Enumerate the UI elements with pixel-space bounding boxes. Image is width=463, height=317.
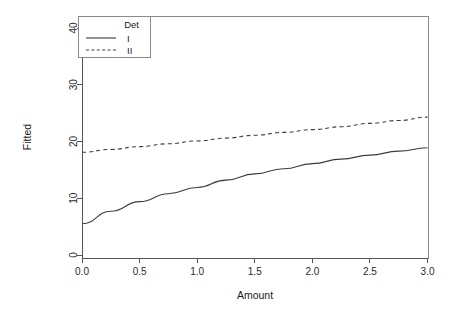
y-tick-label: 10 bbox=[68, 192, 79, 204]
x-tick-label: 0.5 bbox=[133, 266, 147, 277]
legend-label-II: II bbox=[127, 45, 132, 56]
legend-label-I: I bbox=[127, 33, 130, 44]
y-tick-label: 0 bbox=[68, 252, 79, 258]
legend-box bbox=[78, 16, 150, 57]
x-axis-title: Amount bbox=[237, 289, 273, 301]
y-tick-label: 30 bbox=[68, 79, 79, 91]
x-axis-ticks: 0.00.51.01.52.02.53.0 bbox=[75, 258, 435, 277]
x-tick-label: 1.5 bbox=[248, 266, 262, 277]
x-tick-label: 2.0 bbox=[305, 266, 319, 277]
y-tick-label: 40 bbox=[68, 22, 79, 34]
x-tick-label: 1.0 bbox=[190, 266, 204, 277]
legend: Det III bbox=[78, 16, 150, 57]
x-tick-label: 2.5 bbox=[363, 266, 377, 277]
legend-title: Det bbox=[124, 19, 139, 30]
series-line-I bbox=[82, 148, 428, 224]
x-tick-label: 3.0 bbox=[421, 266, 435, 277]
chart-figure: 010203040 0.00.51.01.52.02.53.0 Amount F… bbox=[0, 0, 463, 317]
x-tick-label: 0.0 bbox=[75, 266, 89, 277]
plot-canvas: 010203040 0.00.51.01.52.02.53.0 Amount F… bbox=[0, 0, 463, 317]
y-axis-title: Fitted bbox=[21, 124, 33, 150]
data-series-group bbox=[82, 117, 428, 224]
series-line-II bbox=[82, 117, 428, 152]
y-tick-label: 20 bbox=[68, 136, 79, 148]
